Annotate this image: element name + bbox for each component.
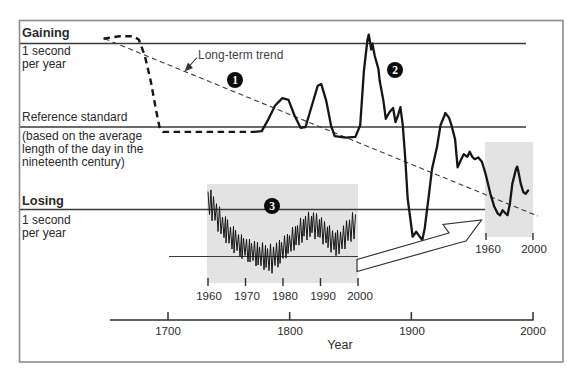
axis-tick-1700: 1700 bbox=[155, 325, 181, 337]
inset-to-detail-arrow bbox=[357, 220, 482, 272]
annotation-badge-2: 2 bbox=[387, 62, 403, 78]
annotation-badge-1: 1 bbox=[227, 72, 243, 88]
inset-tick-2000: 2000 bbox=[347, 290, 373, 302]
annotation-badge-3: 3 bbox=[264, 198, 280, 214]
axis-tick-1900: 1900 bbox=[399, 325, 425, 337]
losing-label: Losing bbox=[22, 194, 64, 207]
gaining-sub-label-2: per year bbox=[22, 58, 66, 71]
reference-note-3: nineteenth century) bbox=[22, 156, 125, 169]
detail-tick-1960: 1960 bbox=[475, 243, 501, 255]
gaining-label: Gaining bbox=[22, 26, 70, 39]
inset-tick-1970: 1970 bbox=[234, 290, 260, 302]
axis-tick-2000: 2000 bbox=[520, 325, 546, 337]
detail-tick-2000: 2000 bbox=[521, 243, 547, 255]
long-term-trend-label: Long-term trend bbox=[198, 49, 283, 62]
inset-tick-1980: 1980 bbox=[272, 290, 298, 302]
inset-tick-1960: 1960 bbox=[196, 290, 222, 302]
inset-tick-1990: 1990 bbox=[310, 290, 336, 302]
reference-label: Reference standard bbox=[22, 111, 127, 124]
axis-title-year: Year bbox=[327, 338, 352, 352]
axis-tick-1800: 1800 bbox=[277, 325, 303, 337]
figure: Gaining 1 second per year Reference stan… bbox=[0, 0, 584, 385]
losing-sub-label-2: per year bbox=[22, 227, 66, 240]
detail-box-1960-2000 bbox=[485, 142, 533, 237]
